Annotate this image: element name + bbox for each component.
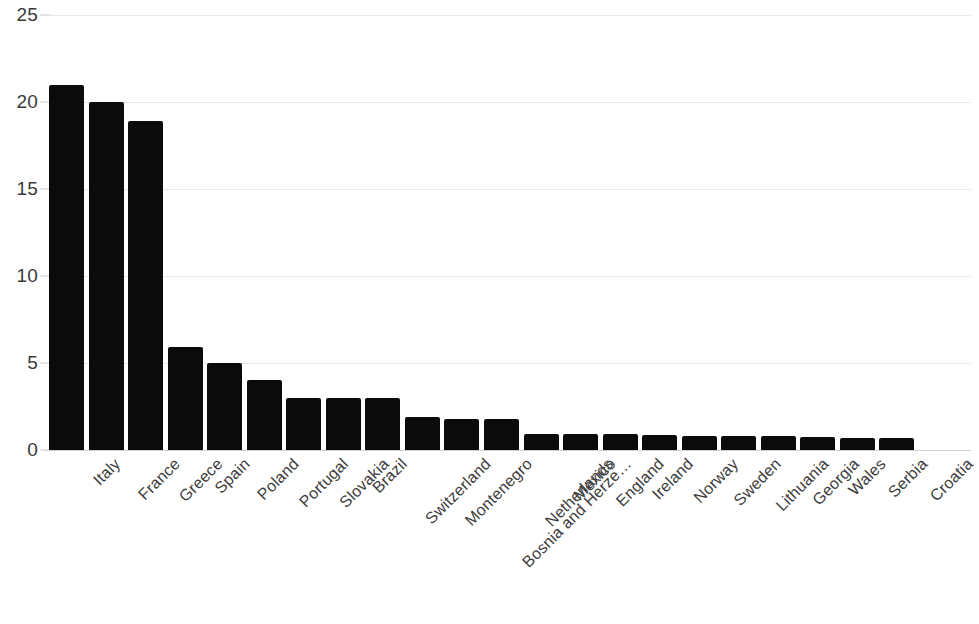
x-axis-label: Bosnia and Herze… <box>519 455 635 571</box>
y-tick-label-5: 5 <box>27 352 38 374</box>
bar[interactable] <box>682 436 717 450</box>
bar[interactable] <box>484 419 519 450</box>
x-axis-label: Croatia <box>926 455 976 505</box>
bar[interactable] <box>49 85 84 450</box>
bar-series <box>46 15 971 450</box>
bar[interactable] <box>365 398 400 450</box>
bar[interactable] <box>444 419 479 450</box>
x-axis-label: Italy <box>89 455 123 489</box>
bar[interactable] <box>840 438 875 450</box>
y-tick-label-10: 10 <box>16 265 38 287</box>
y-axis: 0510152025 <box>0 15 38 450</box>
x-axis-label: Poland <box>254 455 303 504</box>
bar[interactable] <box>524 434 559 450</box>
bar[interactable] <box>603 434 638 450</box>
x-axis-labels: ItalyFranceGreeceSpainPolandPortugalSlov… <box>46 455 971 620</box>
y-tick-label-0: 0 <box>27 439 38 461</box>
bar[interactable] <box>721 436 756 450</box>
bar[interactable] <box>128 121 163 450</box>
bar[interactable] <box>89 102 124 450</box>
bar[interactable] <box>168 347 203 450</box>
bar[interactable] <box>879 438 914 450</box>
y-tick-label-25: 25 <box>16 4 38 26</box>
bar[interactable] <box>326 398 361 450</box>
bar-chart: 0510152025 ItalyFranceGreeceSpainPolandP… <box>0 0 979 624</box>
bar[interactable] <box>207 363 242 450</box>
bar[interactable] <box>800 437 835 450</box>
bar[interactable] <box>642 435 677 450</box>
y-tick-label-20: 20 <box>16 91 38 113</box>
bar[interactable] <box>563 434 598 450</box>
bar[interactable] <box>405 417 440 450</box>
bar[interactable] <box>247 380 282 450</box>
y-tick-label-15: 15 <box>16 178 38 200</box>
bar[interactable] <box>286 398 321 450</box>
plot-area <box>46 15 971 450</box>
gridline-0 <box>46 450 971 451</box>
bar[interactable] <box>761 436 796 450</box>
x-axis-label: France <box>135 455 184 504</box>
x-axis-label: Serbia <box>885 455 931 501</box>
